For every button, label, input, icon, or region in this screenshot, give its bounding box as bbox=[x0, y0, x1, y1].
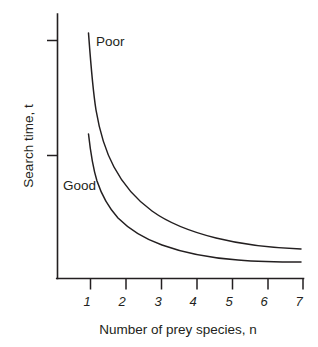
x-tick-label-4: 4 bbox=[189, 294, 196, 309]
curve-label-good: Good bbox=[63, 178, 96, 193]
y-axis-title: Search time, t bbox=[21, 104, 36, 188]
x-tick-label-2: 2 bbox=[117, 294, 126, 309]
x-tick-label-7: 7 bbox=[295, 294, 303, 309]
chart-canvas: 1 2 3 4 5 6 7 Poor Good Search time, t N… bbox=[0, 0, 318, 347]
curve-label-poor: Poor bbox=[96, 34, 125, 49]
curve-good bbox=[89, 134, 302, 262]
x-tick-label-1: 1 bbox=[83, 294, 90, 309]
chart-figure: 1 2 3 4 5 6 7 Poor Good Search time, t N… bbox=[0, 0, 318, 347]
x-tick-label-6: 6 bbox=[260, 294, 268, 309]
curve-poor bbox=[89, 33, 302, 249]
x-tick-label-5: 5 bbox=[225, 294, 233, 309]
x-tick-label-3: 3 bbox=[154, 294, 162, 309]
x-axis-title: Number of prey species, n bbox=[99, 322, 257, 337]
